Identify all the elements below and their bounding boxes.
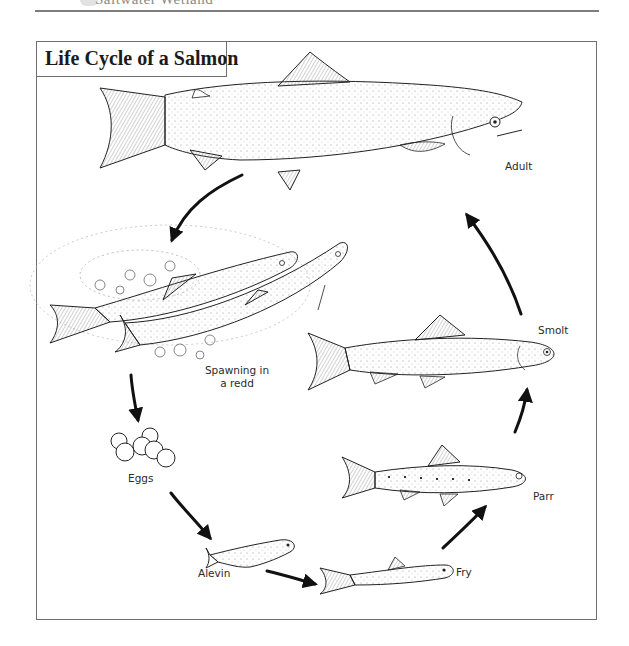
fry-icon — [320, 557, 453, 594]
arrow-smolt-to-adult — [467, 215, 521, 314]
label-spawning-line2: a redd — [197, 377, 277, 390]
salmon-life-cycle-illustration — [0, 0, 629, 646]
arrow-fry-to-parr — [443, 507, 485, 548]
alevin-icon — [206, 540, 294, 568]
arrow-parr-to-smolt — [515, 390, 527, 432]
label-smolt: Smolt — [538, 324, 568, 337]
title-box: Life Cycle of a Salmon — [36, 41, 227, 77]
arrow-eggs-to-alevin — [171, 493, 210, 538]
arrow-spawning-to-eggs — [131, 375, 138, 420]
figure-title: Life Cycle of a Salmon — [45, 47, 238, 70]
spawning-salmon-icon — [30, 225, 348, 359]
label-eggs: Eggs — [128, 472, 153, 485]
label-spawning-line1: Spawning in — [197, 364, 277, 377]
label-alevin: Alevin — [198, 567, 230, 580]
label-adult: Adult — [505, 160, 532, 173]
label-parr: Parr — [533, 490, 554, 503]
parr-icon — [342, 445, 526, 506]
label-fry: Fry — [456, 566, 472, 579]
eggs-icon — [111, 428, 175, 467]
arrow-adult-to-spawning — [172, 175, 242, 240]
label-spawning: Spawning in a redd — [197, 364, 277, 390]
smolt-icon — [308, 315, 554, 390]
arrow-alevin-to-fry — [267, 571, 315, 584]
